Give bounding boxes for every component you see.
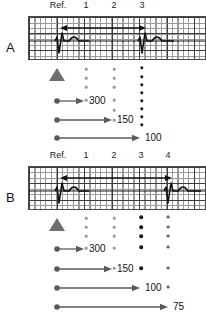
panel-b-arrow-100: [0, 283, 206, 293]
panel-b-letter: B: [6, 191, 15, 204]
panel-b-measurement-value-150: 150: [117, 264, 134, 274]
panel-b-column-headers: Ref. 1 2 3 4: [0, 150, 206, 165]
panel-a-letter: A: [6, 41, 15, 54]
panel-b-measurement-row-300: 300: [0, 244, 206, 254]
panel-a-measurement-value-100: 100: [145, 133, 162, 143]
panel-a-measurement-row-300: 300: [0, 96, 206, 106]
panel-b-ecg-strip: [28, 166, 206, 210]
panel-b-measurement-value-300: 300: [89, 244, 106, 254]
panel-a: Ref. 1 2 3 A: [0, 0, 206, 150]
panel-b-measurement-row-100: 100: [0, 283, 206, 293]
panel-a-measurement-row-100: 100: [0, 133, 206, 143]
panel-b-measurement-row-75: 75: [0, 302, 206, 312]
panel-a-column-header-1: 1: [83, 0, 88, 11]
panel-b-ecg-trace: [29, 167, 205, 209]
panel-b-arrow-150: [0, 264, 206, 274]
panel-a-column-headers: Ref. 1 2 3: [0, 0, 206, 15]
panel-b-measurement-value-100: 100: [145, 283, 162, 293]
panel-b-reference-triangle: [49, 218, 65, 231]
panel-a-arrow-150: [0, 115, 206, 125]
panel-b-measurement-value-75: 75: [173, 302, 184, 312]
panel-a-reference-triangle: [49, 68, 65, 81]
panel-a-arrow-100: [0, 133, 206, 143]
panel-b-column-header-ref: Ref.: [50, 150, 67, 161]
panel-b: Ref. 1 2 3 4 B: [0, 150, 206, 304]
panel-b-column-header-2: 2: [111, 150, 116, 161]
panel-a-column-header-2: 2: [111, 0, 116, 11]
panel-b-column-header-3: 3: [138, 150, 143, 161]
panel-b-measurement-row-150: 150: [0, 264, 206, 274]
panel-a-measurement-row-150: 150: [0, 115, 206, 125]
panel-b-column-header-4: 4: [165, 150, 170, 161]
panel-a-column-header-ref: Ref.: [50, 0, 67, 11]
panel-a-measurement-value-150: 150: [117, 115, 134, 125]
panel-a-column-header-3: 3: [139, 0, 144, 11]
panel-a-ecg-strip: [28, 16, 206, 60]
panel-a-measurement-value-300: 300: [89, 96, 106, 106]
panel-b-column-header-1: 1: [83, 150, 88, 161]
panel-a-ecg-trace: [29, 17, 205, 59]
